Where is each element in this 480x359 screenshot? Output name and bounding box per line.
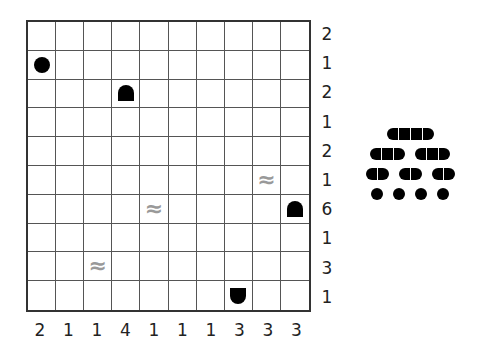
grid-cell[interactable] — [253, 80, 281, 109]
grid-cell[interactable]: ≈ — [84, 252, 112, 281]
grid-cell[interactable] — [225, 281, 253, 310]
grid-cell[interactable] — [56, 195, 84, 224]
grid-cell[interactable] — [140, 108, 168, 137]
grid-cell[interactable] — [84, 166, 112, 195]
grid-cell[interactable] — [140, 252, 168, 281]
grid-cell[interactable] — [112, 252, 140, 281]
grid-cell[interactable] — [169, 195, 197, 224]
grid-cell[interactable] — [84, 51, 112, 80]
grid-cell[interactable] — [56, 137, 84, 166]
grid-cell[interactable] — [281, 166, 309, 195]
grid-cell[interactable] — [56, 252, 84, 281]
grid-cell[interactable] — [140, 22, 168, 51]
grid-cell[interactable] — [225, 108, 253, 137]
grid-cell[interactable] — [112, 137, 140, 166]
grid-cell[interactable] — [225, 80, 253, 109]
grid-cell[interactable] — [253, 51, 281, 80]
grid-cell[interactable] — [28, 224, 56, 253]
grid-cell[interactable] — [112, 281, 140, 310]
grid-cell[interactable] — [112, 166, 140, 195]
grid-cell[interactable] — [112, 195, 140, 224]
grid-cell[interactable] — [84, 195, 112, 224]
grid-cell[interactable] — [225, 22, 253, 51]
grid-cell[interactable] — [28, 137, 56, 166]
grid-cell[interactable] — [197, 224, 225, 253]
grid-cell[interactable] — [197, 108, 225, 137]
grid-cell[interactable] — [197, 137, 225, 166]
grid-cell[interactable] — [169, 108, 197, 137]
grid-cell[interactable] — [112, 224, 140, 253]
grid-cell[interactable] — [253, 22, 281, 51]
grid-cell[interactable] — [225, 137, 253, 166]
grid-cell[interactable] — [112, 22, 140, 51]
grid-cell[interactable] — [281, 137, 309, 166]
grid-cell[interactable] — [253, 108, 281, 137]
grid-cell[interactable] — [169, 51, 197, 80]
grid-cell[interactable] — [28, 51, 56, 80]
grid-cell[interactable]: ≈ — [253, 166, 281, 195]
grid-cell[interactable] — [281, 80, 309, 109]
grid-cell[interactable] — [84, 22, 112, 51]
grid-cell[interactable] — [281, 252, 309, 281]
grid-cell[interactable] — [281, 108, 309, 137]
grid-cell[interactable] — [281, 195, 309, 224]
grid-cell[interactable] — [140, 166, 168, 195]
grid-cell[interactable] — [225, 195, 253, 224]
grid-cell[interactable] — [197, 166, 225, 195]
grid-cell[interactable] — [197, 80, 225, 109]
grid-cell[interactable]: ≈ — [140, 195, 168, 224]
grid-cell[interactable] — [225, 252, 253, 281]
grid-cell[interactable] — [28, 195, 56, 224]
grid-cell[interactable] — [197, 252, 225, 281]
grid-cell[interactable] — [56, 108, 84, 137]
grid-cell[interactable] — [225, 166, 253, 195]
grid-cell[interactable] — [197, 22, 225, 51]
grid-cell[interactable] — [140, 224, 168, 253]
grid-cell[interactable] — [56, 281, 84, 310]
grid-cell[interactable] — [197, 51, 225, 80]
grid-cell[interactable] — [253, 224, 281, 253]
grid-cell[interactable] — [140, 281, 168, 310]
grid-cell[interactable] — [84, 137, 112, 166]
grid-cell[interactable] — [253, 195, 281, 224]
grid-cell[interactable] — [281, 51, 309, 80]
grid-cell[interactable] — [169, 252, 197, 281]
grid-cell[interactable] — [281, 224, 309, 253]
grid-cell[interactable] — [84, 80, 112, 109]
grid-cell[interactable] — [84, 108, 112, 137]
grid-cell[interactable] — [112, 80, 140, 109]
grid-cell[interactable] — [169, 281, 197, 310]
grid-cell[interactable] — [56, 51, 84, 80]
grid-cell[interactable] — [56, 80, 84, 109]
grid-cell[interactable] — [140, 51, 168, 80]
grid-cell[interactable] — [225, 51, 253, 80]
grid-cell[interactable] — [28, 80, 56, 109]
grid-cell[interactable] — [28, 22, 56, 51]
grid-cell[interactable] — [197, 195, 225, 224]
grid-cell[interactable] — [140, 137, 168, 166]
grid-cell[interactable] — [28, 252, 56, 281]
grid-cell[interactable] — [253, 281, 281, 310]
grid-cell[interactable] — [225, 224, 253, 253]
grid-cell[interactable] — [112, 108, 140, 137]
grid-cell[interactable] — [84, 281, 112, 310]
grid-cell[interactable] — [56, 22, 84, 51]
grid-cell[interactable] — [84, 224, 112, 253]
grid-cell[interactable] — [169, 224, 197, 253]
grid-cell[interactable] — [197, 281, 225, 310]
grid-cell[interactable] — [56, 166, 84, 195]
grid-cell[interactable] — [281, 22, 309, 51]
grid-cell[interactable] — [169, 137, 197, 166]
grid-cell[interactable] — [28, 281, 56, 310]
grid-cell[interactable] — [56, 224, 84, 253]
grid-cell[interactable] — [169, 166, 197, 195]
grid-cell[interactable] — [169, 80, 197, 109]
grid-cell[interactable] — [169, 22, 197, 51]
grid-cell[interactable] — [253, 252, 281, 281]
grid-cell[interactable] — [140, 80, 168, 109]
grid-cell[interactable] — [253, 137, 281, 166]
grid-cell[interactable] — [28, 166, 56, 195]
grid-cell[interactable] — [112, 51, 140, 80]
grid-cell[interactable] — [281, 281, 309, 310]
grid-cell[interactable] — [28, 108, 56, 137]
